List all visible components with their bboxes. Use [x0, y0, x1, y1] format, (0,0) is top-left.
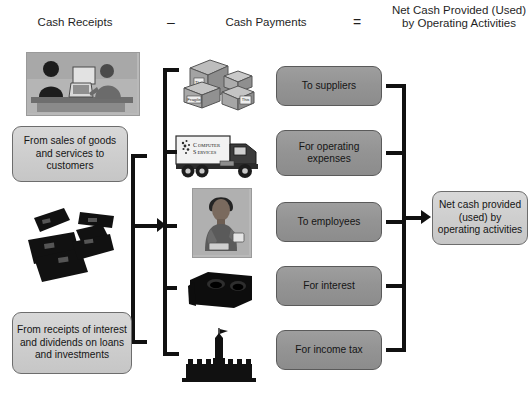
payments-stub-employees — [163, 224, 177, 228]
box-for-income-tax-label: For income tax — [291, 344, 366, 356]
svg-text:C: C — [193, 142, 197, 148]
svg-text:ERVICES: ERVICES — [198, 150, 217, 155]
payments-bracket-bottom — [163, 352, 179, 356]
box-net-cash-label: Net cash provided (used) by operating ac… — [433, 199, 527, 236]
shipping-boxes-illustration: This Fragile This — [180, 56, 260, 112]
result-stub-employees — [386, 220, 406, 224]
box-from-sales-label: From sales of goods and services to cust… — [13, 135, 127, 172]
service-truck-illustration: C OMPUTER S ERVICES — [172, 128, 268, 180]
arrow-right-icon — [421, 210, 431, 224]
box-to-suppliers[interactable]: To suppliers — [276, 66, 382, 106]
cash-flow-diagram: Cash Receipts – Cash Payments = Net Cash… — [0, 0, 532, 395]
svg-text:OMPUTER: OMPUTER — [198, 143, 221, 148]
equals-operator: = — [344, 16, 370, 29]
svg-text:This: This — [242, 97, 250, 102]
header-net-cash: Net Cash Provided (Used) by Operating Ac… — [386, 4, 532, 30]
box-from-receipts-label: From receipts of interest and dividends … — [13, 324, 131, 361]
government-building-illustration — [176, 328, 262, 384]
cash-box-illustration — [186, 266, 256, 310]
box-from-sales[interactable]: From sales of goods and services to cust… — [12, 126, 128, 182]
result-stub-interest — [386, 284, 406, 288]
box-to-employees[interactable]: To employees — [276, 202, 382, 242]
svg-text:Fragile: Fragile — [187, 97, 201, 102]
receipts-bracket-spine — [131, 154, 135, 344]
box-for-interest[interactable]: For interest — [276, 266, 382, 306]
result-stub-operating — [386, 151, 406, 155]
retail-sale-photo — [26, 52, 140, 116]
header-cash-receipts: Cash Receipts — [10, 16, 140, 29]
minus-operator: – — [158, 16, 184, 29]
box-for-operating-expenses-label: For operating expenses — [277, 141, 381, 166]
payments-bracket-spine — [163, 68, 167, 356]
payments-stub-interest — [163, 286, 177, 290]
header-cash-payments: Cash Payments — [196, 16, 336, 29]
result-bracket-bottom — [386, 348, 406, 352]
box-net-cash[interactable]: Net cash provided (used) by operating ac… — [432, 191, 528, 245]
box-to-suppliers-label: To suppliers — [298, 80, 360, 92]
svg-text:S: S — [193, 149, 196, 155]
box-for-operating-expenses[interactable]: For operating expenses — [276, 130, 382, 176]
employee-photo — [192, 188, 252, 258]
cash-bundles-illustration — [18, 196, 136, 288]
box-for-interest-label: For interest — [299, 280, 359, 292]
receipts-bracket-bottom — [131, 340, 147, 344]
box-from-receipts[interactable]: From receipts of interest and dividends … — [12, 312, 132, 374]
box-to-employees-label: To employees — [294, 216, 365, 228]
payments-stub-operating — [163, 150, 177, 154]
box-for-income-tax[interactable]: For income tax — [276, 330, 382, 370]
